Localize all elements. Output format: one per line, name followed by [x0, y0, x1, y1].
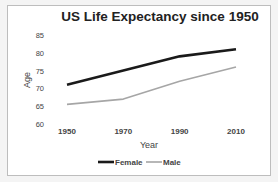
- legend-item-male: Male: [146, 158, 181, 167]
- legend-label: Female: [115, 158, 143, 167]
- x-tick-label: 1950: [58, 127, 76, 136]
- x-axis-label: Year: [140, 140, 158, 150]
- series-line-male: [67, 67, 236, 104]
- legend: FemaleMale: [98, 158, 181, 167]
- y-tick-label: 85: [36, 31, 44, 40]
- x-tick-label: 2010: [227, 127, 245, 136]
- y-axis-label: Age: [22, 72, 32, 88]
- series-lines: [67, 49, 236, 104]
- legend-item-female: Female: [98, 158, 143, 167]
- y-tick-label: 60: [36, 120, 44, 129]
- x-tick-label: 1990: [171, 127, 189, 136]
- line-chart: 606570758085 1950197019902010 Age Year F…: [0, 0, 278, 182]
- x-axis-ticks: 1950197019902010: [58, 127, 245, 136]
- series-line-female: [67, 49, 236, 85]
- y-tick-label: 65: [36, 102, 44, 111]
- y-tick-label: 70: [36, 84, 44, 93]
- y-axis-ticks: 606570758085: [36, 31, 44, 129]
- y-tick-label: 80: [36, 49, 44, 58]
- y-tick-label: 75: [36, 67, 44, 76]
- x-tick-label: 1970: [114, 127, 132, 136]
- legend-label: Male: [163, 158, 181, 167]
